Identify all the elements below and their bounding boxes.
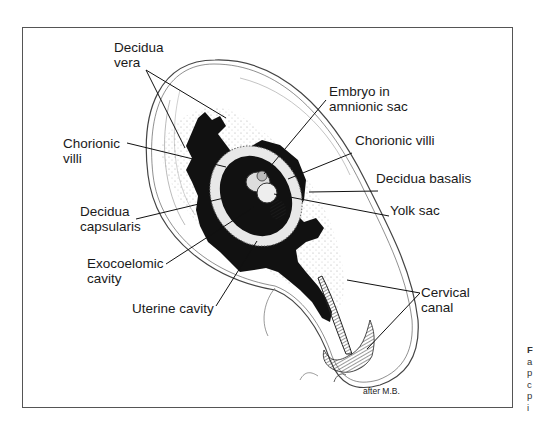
label-decidua-basalis: Decidua basalis xyxy=(376,171,471,186)
label-yolk-sac: Yolk sac xyxy=(390,203,440,218)
label-chorionic-villi-left: Chorionic villi xyxy=(63,136,120,166)
label-chorionic-villi-right: Chorionic villi xyxy=(355,133,435,148)
label-uterine-cavity: Uterine cavity xyxy=(132,301,214,316)
label-exocoelomic-cavity: Exocoelomic cavity xyxy=(87,256,164,286)
caption-fragment: F a p c p i xyxy=(527,344,533,413)
label-decidua-capsularis: Decidua capsularis xyxy=(80,204,141,234)
label-decidua-vera: Decidua vera xyxy=(114,40,164,70)
yolk-sac xyxy=(257,183,277,203)
illustration-credit: after M.B. xyxy=(363,386,400,396)
label-cervical-canal: Cervical canal xyxy=(421,285,470,315)
label-embryo-amnionic-sac: Embryo in amnionic sac xyxy=(329,84,408,114)
